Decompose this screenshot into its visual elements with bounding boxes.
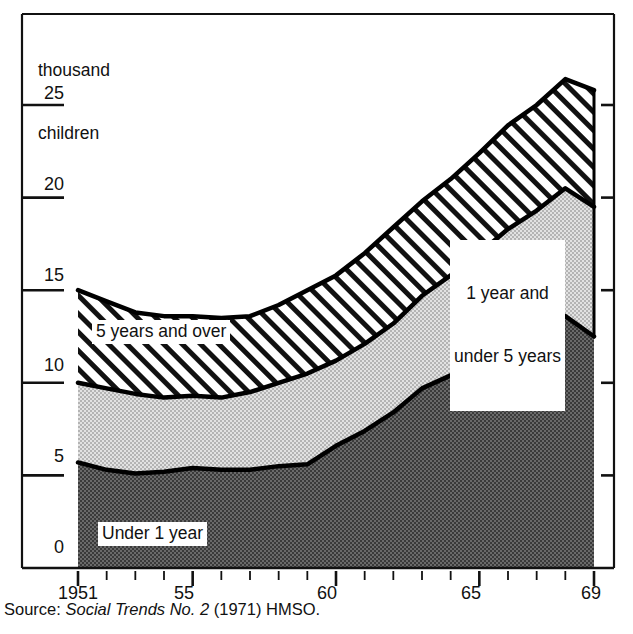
y-axis-title-line1: thousand	[38, 60, 110, 81]
series-label-1-to-5-line2: under 5 years	[454, 346, 561, 367]
series-label-1-year-and-under-5-years: 1 year and under 5 years	[450, 240, 565, 411]
y-tick-label-20: 20	[30, 174, 64, 195]
y-tick-label-25: 25	[30, 83, 64, 104]
series-label-5-years-and-over: 5 years and over	[92, 320, 230, 344]
source-prefix: Source:	[4, 600, 65, 618]
source-title: Social Trends No. 2	[65, 600, 209, 618]
series-label-under-1-year: Under 1 year	[98, 522, 207, 546]
series-label-1-to-5-line1: 1 year and	[454, 283, 561, 304]
figure-area-chart: thousand children 25 20 15 10 5 0 1951 5…	[0, 0, 633, 634]
x-tick-label-69: 69	[570, 583, 612, 604]
y-tick-label-15: 15	[30, 265, 64, 286]
source-caption: Source: Social Trends No. 2 (1971) HMSO.	[4, 600, 320, 619]
y-tick-label-0: 0	[30, 537, 64, 558]
y-tick-label-10: 10	[30, 355, 64, 376]
y-tick-label-5: 5	[30, 446, 64, 467]
x-tick-label-65: 65	[450, 583, 492, 604]
source-suffix: (1971) HMSO.	[209, 600, 320, 618]
y-axis-title-line2: children	[38, 123, 110, 144]
